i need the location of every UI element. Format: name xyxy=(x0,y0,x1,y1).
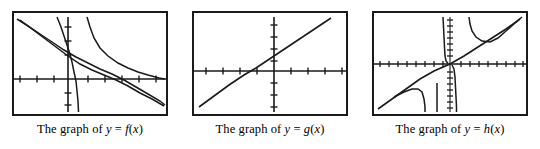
plot-frame-f xyxy=(12,11,168,116)
figure-row: The graph of y = f(x) xyxy=(0,0,540,149)
caption-close-paren-g: ) xyxy=(320,122,324,136)
caption-prefix-h: The graph of xyxy=(396,122,465,136)
caption-equals-h: = xyxy=(470,122,484,136)
caption-equals-g: = xyxy=(290,122,304,136)
y-axis-f xyxy=(65,17,72,112)
figure-panel-h: The graph of y = h(x) xyxy=(360,0,540,149)
curve-h-upper-right-branch xyxy=(469,17,522,42)
caption-equals-f: = xyxy=(112,122,126,136)
plot-svg-g xyxy=(194,13,346,114)
figure-panel-f: The graph of y = f(x) xyxy=(0,0,180,149)
curve-h-lower-left-branch xyxy=(394,89,425,112)
figure-panel-g: The graph of y = g(x) xyxy=(180,0,360,149)
plot-frame-h xyxy=(372,11,528,116)
caption-close-paren-h: ) xyxy=(500,122,504,136)
plot-frame-g xyxy=(192,11,348,116)
x-axis-g xyxy=(194,68,346,75)
caption-close-paren-f: ) xyxy=(139,122,143,136)
caption-prefix-f: The graph of xyxy=(37,122,106,136)
y-axis-g xyxy=(271,17,278,112)
x-axis-f xyxy=(14,76,166,83)
figure-caption-h: The graph of y = h(x) xyxy=(396,123,505,137)
figure-caption-f: The graph of y = f(x) xyxy=(37,123,143,137)
plot-svg-f xyxy=(14,13,166,114)
plot-svg-h xyxy=(374,13,526,114)
curve-f-right-branch xyxy=(87,17,165,79)
curve-g-line xyxy=(199,18,331,107)
figure-caption-g: The graph of y = g(x) xyxy=(216,123,325,137)
caption-prefix-g: The graph of xyxy=(216,122,285,136)
